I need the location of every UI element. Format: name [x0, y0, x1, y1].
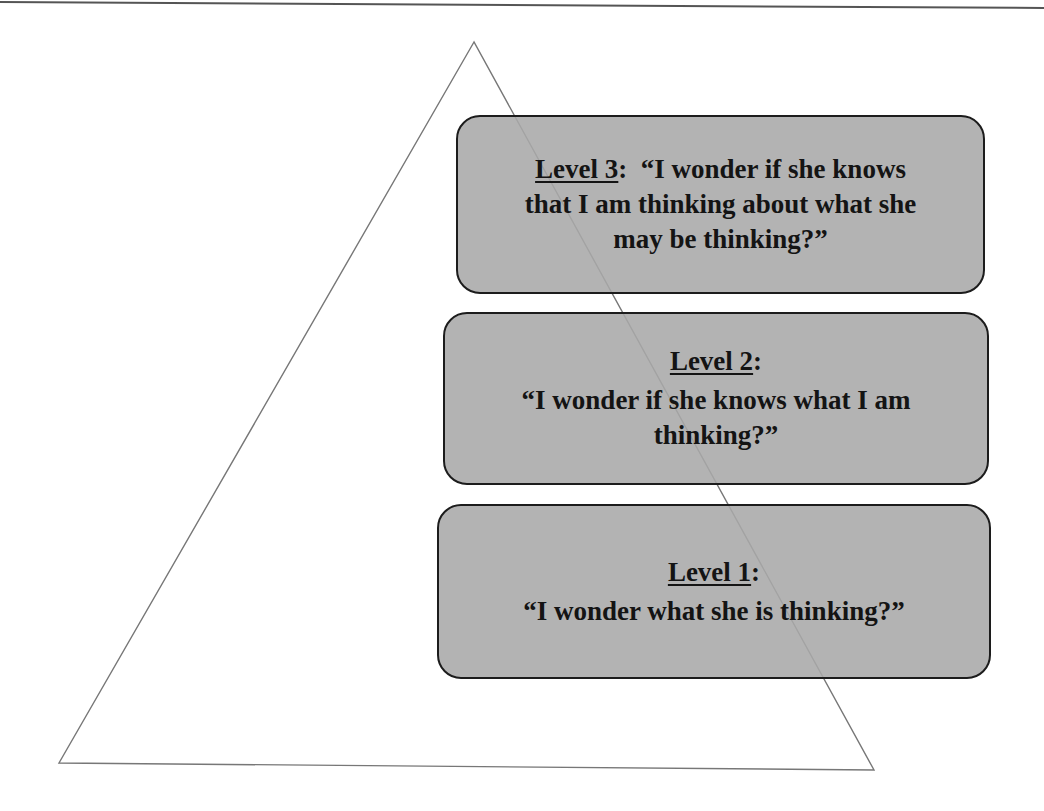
- level-1-box: Level 1: “I wonder what she is thinking?…: [437, 504, 991, 679]
- level-1-label: Level 1: [668, 557, 751, 587]
- top-rule-line: [0, 2, 1044, 8]
- level-3-quote-line-3: may be thinking?”: [613, 222, 828, 257]
- level-3-box: Level 3: “I wonder if she knows that I a…: [456, 115, 985, 294]
- level-3-label: Level 3: [535, 154, 618, 184]
- level-2-label: Level 2: [670, 346, 753, 376]
- level-2-box: Level 2: “I wonder if she knows what I a…: [443, 312, 989, 485]
- level-2-quote-line-1: “I wonder if she knows what I am: [522, 383, 911, 418]
- level-1-quote-line-1: “I wonder what she is thinking?”: [523, 594, 904, 629]
- level-1-colon: :: [751, 557, 760, 587]
- level-3-colon: :: [618, 154, 627, 184]
- level-2-heading: Level 2:: [670, 344, 762, 379]
- level-3-quote-line-1: “I wonder if she knows: [641, 154, 906, 184]
- level-2-colon: :: [753, 346, 762, 376]
- level-2-quote-line-2: thinking?”: [654, 418, 779, 453]
- level-1-heading: Level 1:: [668, 555, 760, 590]
- level-3-line-1: Level 3: “I wonder if she knows: [535, 152, 906, 187]
- level-3-quote-line-2: that I am thinking about what she: [525, 187, 917, 222]
